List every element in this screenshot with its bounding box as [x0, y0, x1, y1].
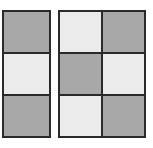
- grid-cell-light: [59, 95, 102, 137]
- grid-cell-light: [59, 11, 102, 53]
- grid-cell-dark: [3, 11, 50, 53]
- grid-cell-dark: [59, 53, 102, 95]
- left-grid: [2, 10, 51, 138]
- right-grid: [58, 10, 146, 138]
- grid-cell-dark: [102, 95, 145, 137]
- grid-cell-dark: [3, 95, 50, 137]
- grid-cell-dark: [102, 11, 145, 53]
- grid-cell-light: [3, 53, 50, 95]
- grid-cell-light: [102, 53, 145, 95]
